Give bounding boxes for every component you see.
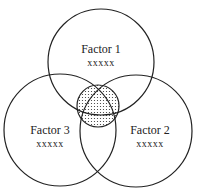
factor2-label: Factor 2 xxxxx (120, 124, 180, 150)
factor3-label: Factor 3 xxxxx (20, 124, 80, 150)
factor1-sublabel: xxxxx (71, 56, 131, 69)
center-overlap-dotted (77, 85, 119, 127)
factor2-sublabel: xxxxx (120, 137, 180, 150)
factor3-title: Factor 3 (20, 124, 80, 137)
venn-svg (0, 0, 197, 191)
factor3-sublabel: xxxxx (20, 137, 80, 150)
factor1-title: Factor 1 (71, 43, 131, 56)
venn-diagram: Factor 1 xxxxx Factor 2 xxxxx Factor 3 x… (0, 0, 197, 191)
factor2-title: Factor 2 (120, 124, 180, 137)
factor1-label: Factor 1 xxxxx (71, 43, 131, 69)
